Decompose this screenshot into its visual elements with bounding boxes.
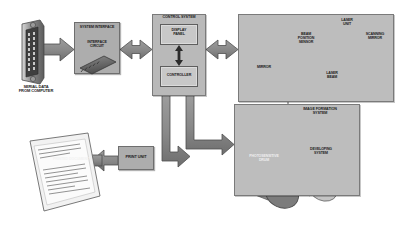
integrated-circuit-chip [74,52,120,76]
display-panel-block[interactable] [160,24,198,45]
display-controller-link-arrow [172,45,186,66]
laser-scanner-panel[interactable] [238,14,394,102]
arrow-control-to-scanner [206,40,238,59]
arrow-interface-to-control [120,40,152,59]
controller-block[interactable] [160,66,198,87]
arrow-control-to-image-formation [186,95,234,155]
image-formation-panel[interactable] [234,104,360,196]
printed-page [30,133,100,211]
arrow-serial-to-interface [44,38,74,61]
print-unit-block[interactable] [118,146,154,170]
laser-printer-block-diagram: SYSTEM INTERFACE INTERFACE CIRCUIT CONTR… [0,0,398,228]
